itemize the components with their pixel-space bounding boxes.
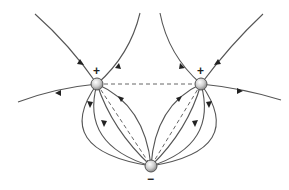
positive-charge-left	[91, 78, 103, 90]
arrow-icon	[77, 59, 84, 65]
right-outward-lines	[160, 13, 281, 100]
negative-charge-bottom	[145, 160, 157, 172]
left-charge-sign: +	[93, 65, 100, 77]
arrow-icon	[101, 120, 107, 127]
right-to-negative-lines	[151, 84, 216, 166]
arrow-icon	[206, 101, 212, 108]
arrow-icon	[192, 120, 198, 127]
left-to-negative-lines	[82, 84, 151, 166]
charges	[91, 78, 207, 172]
arrow-icon	[237, 88, 243, 94]
right-charge-sign: +	[197, 65, 204, 77]
bottom-charge-sign: −	[147, 173, 154, 185]
arrowheads	[55, 59, 243, 127]
field-line-diagram	[0, 0, 289, 190]
arrow-icon	[87, 101, 93, 108]
left-outward-lines	[18, 13, 140, 102]
positive-charge-right	[195, 78, 207, 90]
